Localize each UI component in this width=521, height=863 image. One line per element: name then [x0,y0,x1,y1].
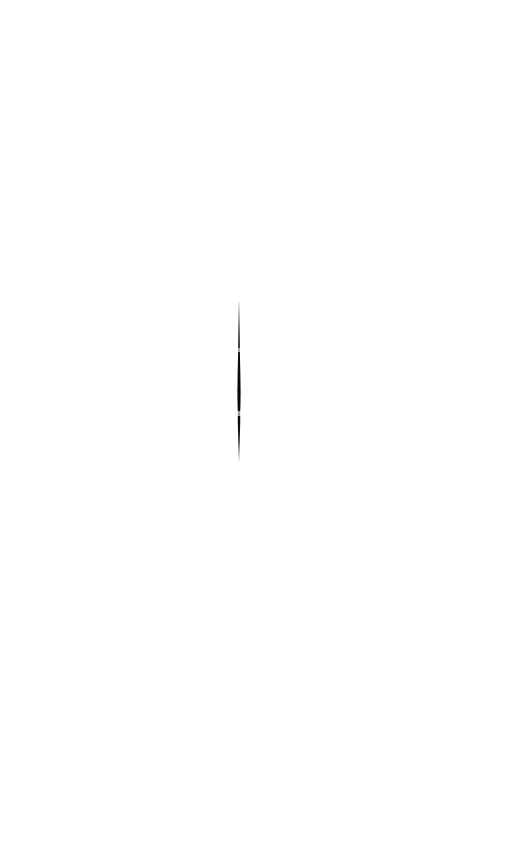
vertical-ink-stroke [237,302,241,462]
ink-texture-break-lower [237,411,241,416]
ink-stroke-layer [0,0,521,863]
artwork-canvas [0,0,521,863]
ink-texture-break-upper [237,348,241,352]
